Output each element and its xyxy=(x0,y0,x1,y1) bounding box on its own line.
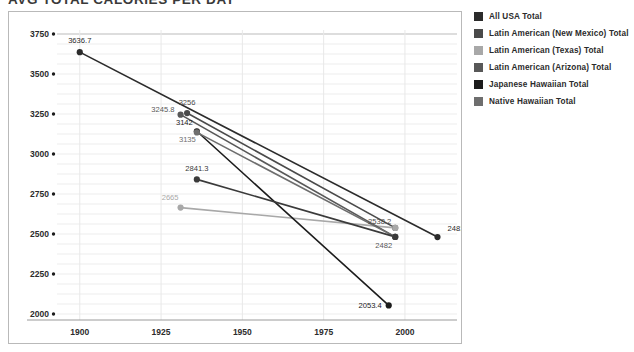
chart-frame: 3750350032503000275025002250200019001925… xyxy=(8,11,462,344)
line-chart-plot: 3750350032503000275025002250200019001925… xyxy=(9,12,461,343)
legend-item[interactable]: Latin American (Arizona) Total xyxy=(474,59,630,75)
x-axis-tick-label: 1950 xyxy=(233,327,252,337)
x-axis-tick-label: 1900 xyxy=(70,327,89,337)
y-axis-tick-label: 2500 xyxy=(30,229,49,239)
data-point-label: 3256 xyxy=(179,98,196,107)
legend-swatch-icon xyxy=(474,46,483,55)
y-axis-tick-label: 3500 xyxy=(30,69,49,79)
y-axis-tick-dot-icon xyxy=(52,192,55,195)
data-point-label: 3135 xyxy=(179,135,196,144)
legend-item-label: Native Hawaiian Total xyxy=(489,97,576,106)
x-axis-tick-label: 1975 xyxy=(314,327,333,337)
x-axis-tick-label: 1925 xyxy=(152,327,171,337)
y-axis-tick-label: 2000 xyxy=(30,309,49,319)
legend-swatch-icon xyxy=(474,80,483,89)
data-point-label: 2053.4 xyxy=(358,301,381,310)
data-point-label: 2665 xyxy=(162,193,179,202)
data-point-marker[interactable] xyxy=(184,110,190,116)
data-point-marker[interactable] xyxy=(177,112,183,118)
chart-legend: All USA TotalLatin American (New Mexico)… xyxy=(474,8,630,110)
legend-item-label: Latin American (Texas) Total xyxy=(489,46,604,55)
x-axis-tick-label: 2000 xyxy=(396,327,415,337)
y-axis-tick-label: 2750 xyxy=(30,189,49,199)
y-axis-tick-dot-icon xyxy=(52,152,55,155)
data-point-label: 2481 xyxy=(447,224,461,233)
y-axis-tick-label: 3000 xyxy=(30,149,49,159)
y-axis-tick-label: 3250 xyxy=(30,109,49,119)
data-point-label: 3636.7 xyxy=(68,36,91,45)
data-point-label: 3142 xyxy=(176,118,193,127)
legend-item-label: All USA Total xyxy=(489,12,542,21)
legend-item[interactable]: Latin American (Texas) Total xyxy=(474,42,630,58)
legend-item-label: Latin American (Arizona) Total xyxy=(489,63,611,72)
y-axis-tick-dot-icon xyxy=(52,32,55,35)
data-point-marker[interactable] xyxy=(194,176,200,182)
data-point-label: 2841.3 xyxy=(185,164,208,173)
legend-swatch-icon xyxy=(474,12,483,21)
legend-item[interactable]: Latin American (New Mexico) Total xyxy=(474,25,630,41)
series-line xyxy=(197,179,395,236)
data-point-label: 2538.2 xyxy=(368,217,391,226)
data-point-marker[interactable] xyxy=(177,205,183,211)
data-point-label: 3245.8 xyxy=(151,105,174,114)
legend-swatch-icon xyxy=(474,63,483,72)
y-axis-tick-dot-icon xyxy=(52,272,55,275)
legend-item[interactable]: Native Hawaiian Total xyxy=(474,93,630,109)
data-point-marker[interactable] xyxy=(434,234,440,240)
data-point-marker[interactable] xyxy=(392,225,398,231)
page-title: AVG TOTAL CALORIES PER DAY xyxy=(8,0,235,7)
series-line xyxy=(80,52,438,237)
legend-item-label: Latin American (New Mexico) Total xyxy=(489,29,629,38)
legend-item-label: Japanese Hawaiian Total xyxy=(489,80,589,89)
data-point-marker[interactable] xyxy=(392,234,398,240)
legend-swatch-icon xyxy=(474,97,483,106)
y-axis-tick-dot-icon xyxy=(52,72,55,75)
data-point-marker[interactable] xyxy=(386,302,392,308)
legend-swatch-icon xyxy=(474,29,483,38)
y-axis-tick-label: 2250 xyxy=(30,269,49,279)
y-axis-tick-dot-icon xyxy=(52,232,55,235)
y-axis-tick-label: 3750 xyxy=(30,29,49,39)
legend-item[interactable]: Japanese Hawaiian Total xyxy=(474,76,630,92)
y-axis-tick-dot-icon xyxy=(52,112,55,115)
legend-item[interactable]: All USA Total xyxy=(474,8,630,24)
y-axis-tick-dot-icon xyxy=(52,312,55,315)
series-line xyxy=(181,115,396,237)
data-point-marker[interactable] xyxy=(77,49,83,55)
data-point-label: 2482 xyxy=(375,241,392,250)
